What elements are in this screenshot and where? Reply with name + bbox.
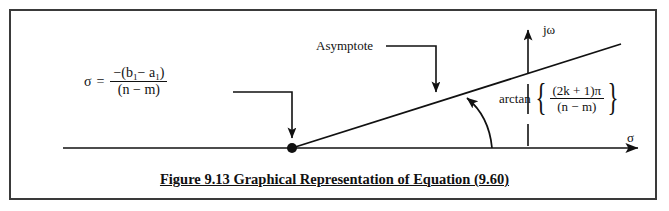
- arctan-fraction: (2k + 1)π (n − m): [550, 84, 605, 113]
- numerator-close: ): [160, 65, 165, 80]
- asymptote-leader: [386, 46, 436, 92]
- arctan-denominator: (n − m): [554, 99, 599, 113]
- asymptote-label: Asymptote: [316, 39, 373, 52]
- sigma-equation-denominator: (n − m): [115, 82, 163, 97]
- numerator-sub-a: 1: [155, 72, 160, 82]
- brace-close: }: [607, 84, 618, 113]
- sigma-equation-numerator: −(b1− a1): [110, 66, 167, 81]
- numerator-open: (b: [121, 65, 133, 80]
- jomega-axis-label: jω: [543, 23, 555, 36]
- sigma-axis-label: σ: [627, 131, 634, 144]
- numerator-minus: − a: [138, 65, 156, 80]
- sigma-equation-equals: =: [97, 75, 111, 89]
- arctan-numerator: (2k + 1)π: [550, 84, 605, 98]
- sigma-equation-fraction: −(b1− a1) (n − m): [110, 66, 167, 97]
- arctan-function-name: arctan: [499, 92, 532, 105]
- figure-caption: Figure 9.13 Graphical Representation of …: [0, 171, 669, 188]
- brace-open: {: [535, 84, 546, 113]
- sigma-equation: σ = −(b1− a1) (n − m): [84, 66, 167, 97]
- sigma-equation-leader: [233, 92, 292, 138]
- figure-container: σ = −(b1− a1) (n − m) Asymptote jω σ arc…: [0, 0, 669, 211]
- arctan-expression: arctan { (2k + 1)π (n − m) }: [499, 84, 622, 113]
- angle-arc: [467, 98, 492, 148]
- sigma-equation-lhs: σ: [84, 75, 97, 89]
- numerator-sub-b: 1: [133, 72, 138, 82]
- real-axis-intercept-dot: [287, 143, 297, 153]
